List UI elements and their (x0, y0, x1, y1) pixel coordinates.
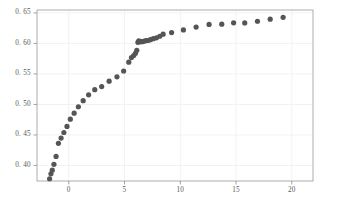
x-tick-label: 10 (166, 186, 194, 194)
data-point (107, 79, 112, 84)
data-point (134, 48, 139, 53)
data-point (68, 117, 73, 122)
data-point (161, 32, 166, 37)
data-point (219, 22, 224, 27)
y-tick-label: 0. 45 (0, 130, 31, 138)
data-point (92, 87, 97, 92)
data-point (268, 17, 273, 22)
data-point (51, 162, 56, 167)
plot-background (37, 10, 313, 181)
y-tick-label: 0. 65 (0, 8, 31, 16)
data-point (181, 27, 186, 32)
data-point (86, 92, 91, 97)
x-tick-label: 20 (278, 186, 306, 194)
data-point (50, 168, 55, 173)
x-tick-label: 15 (222, 186, 250, 194)
data-point (64, 124, 69, 129)
data-point (47, 176, 52, 181)
scatter-plot (0, 0, 337, 211)
data-point (126, 60, 131, 65)
y-tick-label: 0. 55 (0, 69, 31, 77)
data-point (281, 15, 286, 20)
data-point (114, 74, 119, 79)
data-point (72, 111, 77, 116)
data-point (61, 130, 66, 135)
data-point (58, 136, 63, 141)
data-point (255, 19, 260, 24)
data-point (231, 20, 236, 25)
data-point (76, 104, 81, 109)
data-point (242, 20, 247, 25)
y-tick-label: 0. 60 (0, 39, 31, 47)
x-tick-label: 0 (55, 186, 83, 194)
data-point (99, 84, 104, 89)
data-point (206, 22, 211, 27)
chart-figure: 0. 400. 450. 500. 550. 600. 6505101520 (0, 0, 337, 211)
data-point (169, 30, 174, 35)
y-tick-label: 0. 40 (0, 161, 31, 169)
y-tick-label: 0. 50 (0, 100, 31, 108)
data-point (194, 24, 199, 29)
data-point (81, 98, 86, 103)
data-point (56, 141, 61, 146)
data-point (53, 154, 58, 159)
data-point (121, 68, 126, 73)
x-tick-label: 5 (111, 186, 139, 194)
